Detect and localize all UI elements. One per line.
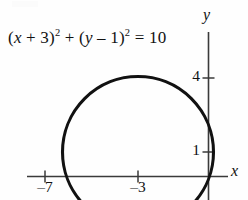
equation-plus-inner: + — [22, 28, 41, 47]
y-axis-label: y — [203, 6, 210, 24]
equation-var-x: x — [14, 28, 22, 47]
equation-var-y: y — [85, 28, 93, 47]
x-tick-label-neg3: –3 — [122, 178, 154, 196]
y-tick-label-4: 4 — [182, 67, 200, 85]
x-axis-label: x — [231, 162, 238, 180]
equation-minus-inner: – — [93, 28, 111, 47]
equation-number-1: 1 — [110, 28, 119, 47]
equation-label: (x + 3)2 + (y – 1)2 = 10 — [8, 28, 166, 48]
x-tick-label-neg7: –7 — [29, 178, 61, 196]
figure-canvas: (x + 3)2 + (y – 1)2 = 10 y x –7 –3 4 1 — [0, 0, 248, 200]
equation-plus-outer: + — [60, 28, 79, 47]
equation-number-3: 3 — [40, 28, 49, 47]
y-tick-label-1: 1 — [182, 141, 200, 159]
equation-rhs-10: 10 — [149, 28, 166, 47]
equation-equals-sign: = — [130, 28, 149, 47]
